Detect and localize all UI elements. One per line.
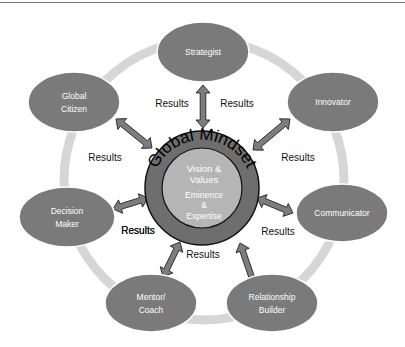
node-innovator: Innovator <box>287 72 379 132</box>
node-label: Communicator <box>314 208 369 218</box>
node-mentor-coach: Mentor/Coach <box>105 274 197 332</box>
results-label: Results <box>121 225 154 236</box>
node-label: Builder <box>259 305 286 315</box>
eminence-line-2: & <box>201 200 207 210</box>
vision-values-line-2: Values <box>190 174 219 185</box>
node-ellipse <box>105 274 197 332</box>
results-label: Results <box>88 152 121 163</box>
node-global-citizen: GlobalCitizen <box>28 72 120 132</box>
eminence-line-1: Eminence <box>185 190 223 200</box>
node-label: Citizen <box>61 104 87 114</box>
double-arrow <box>116 119 152 149</box>
results-label: Results <box>281 152 314 163</box>
double-arrow <box>113 194 148 214</box>
node-label: Strategist <box>185 47 222 57</box>
node-label: Mentor/ <box>137 292 166 302</box>
results-label: Results <box>261 226 294 237</box>
node-ellipse <box>28 72 120 132</box>
leadership-diagram: Global Mindset Vision & Values Eminence … <box>0 0 405 347</box>
node-communicator: Communicator <box>296 184 388 242</box>
core-circle: Global Mindset Vision & Values Eminence … <box>144 125 261 245</box>
node-decision-maker: DecisionMaker <box>19 187 115 247</box>
vision-values-line-1: Vision & <box>187 163 222 174</box>
node-label: Innovator <box>315 97 351 107</box>
node-label: Coach <box>139 305 164 315</box>
double-arrow <box>253 119 290 150</box>
node-label: Maker <box>55 219 79 229</box>
node-ellipse <box>19 187 115 247</box>
eminence-line-3: Expertise <box>186 211 222 221</box>
node-relationship-builder: RelationshipBuilder <box>226 274 318 332</box>
results-label: Results <box>186 249 219 260</box>
node-label: Relationship <box>249 292 296 302</box>
results-label: Results <box>155 98 188 109</box>
double-arrow <box>196 85 210 128</box>
node-strategist: Strategist <box>157 22 249 82</box>
node-label: Global <box>62 91 87 101</box>
node-label: Decision <box>51 206 84 216</box>
double-arrow <box>160 242 183 277</box>
results-label: Results <box>220 98 253 109</box>
node-ellipse <box>226 274 318 332</box>
double-arrow <box>257 195 293 217</box>
